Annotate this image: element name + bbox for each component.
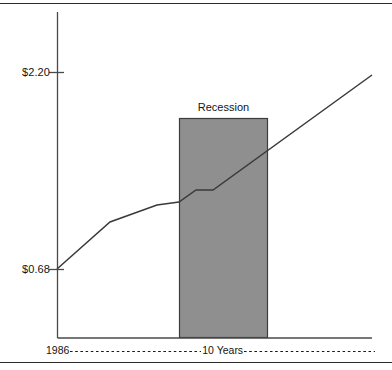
chart-plot-area	[0, 0, 392, 370]
x-axis-dash-right	[244, 351, 375, 352]
x-axis-span-label: 10 Years	[202, 344, 243, 356]
recession-band	[180, 119, 268, 338]
x-axis-caption: 1986 10 Years	[46, 342, 376, 358]
y-axis-label-high: $2.20	[6, 66, 50, 78]
y-axis-label-low: $0.68	[6, 263, 50, 275]
recession-band-label: Recession	[179, 101, 268, 113]
x-axis-start-year: 1986	[46, 344, 69, 356]
x-axis-dash-left	[70, 351, 201, 352]
chart-figure: $2.20 $0.68 Recession 1986 10 Years	[0, 0, 392, 370]
